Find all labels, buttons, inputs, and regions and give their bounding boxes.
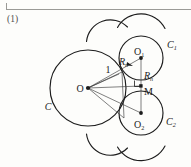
- segment-O-O1: [88, 58, 141, 88]
- label-midpoint-M: M: [144, 86, 153, 97]
- segment-O-O2: [88, 88, 141, 113]
- label-Rn-upper-base: R: [118, 56, 125, 67]
- label-Rn-lower-sub: n: [150, 75, 153, 82]
- segment-O-M: [88, 86, 141, 88]
- label-radius-Rn-upper: Rn: [118, 56, 128, 68]
- label-center-O: O: [76, 83, 83, 94]
- label-circle-C1: C1: [167, 39, 177, 51]
- label-center-O1-base: O: [134, 46, 141, 57]
- geometry-figure: C O 1 O1 O2 C1 C2 Rn Rn M: [0, 0, 191, 167]
- dot-O: [86, 86, 90, 90]
- label-center-O2-sub: 2: [141, 124, 144, 131]
- figure-page: (1): [0, 0, 191, 167]
- label-radius-Rn-lower: Rn: [143, 70, 153, 82]
- label-circle-C1-sub: 1: [174, 44, 177, 51]
- segment-tangent-chord: [122, 72, 124, 118]
- label-Rn-lower-base: R: [143, 70, 150, 81]
- arc-top-right: [118, 14, 166, 29]
- segment-O-tangent-lower: [88, 88, 124, 118]
- label-center-O2-base: O: [134, 119, 141, 130]
- label-center-O2: O2: [134, 119, 144, 131]
- label-center-O1-sub: 1: [141, 51, 144, 58]
- label-center-O1: O1: [134, 46, 144, 58]
- label-circle-C2-sub: 2: [173, 121, 176, 128]
- label-circle-C: C: [45, 101, 52, 112]
- segment-radius-1: [88, 74, 119, 88]
- label-radius-1: 1: [106, 64, 111, 75]
- label-Rn-upper-sub: n: [125, 61, 128, 68]
- geometry-svg: C O 1 O1 O2 C1 C2 Rn Rn M: [0, 0, 191, 167]
- dot-M: [139, 84, 142, 87]
- label-circle-C2: C2: [166, 116, 176, 128]
- arc-bottom-right: [118, 146, 166, 161]
- dot-O2: [139, 111, 143, 115]
